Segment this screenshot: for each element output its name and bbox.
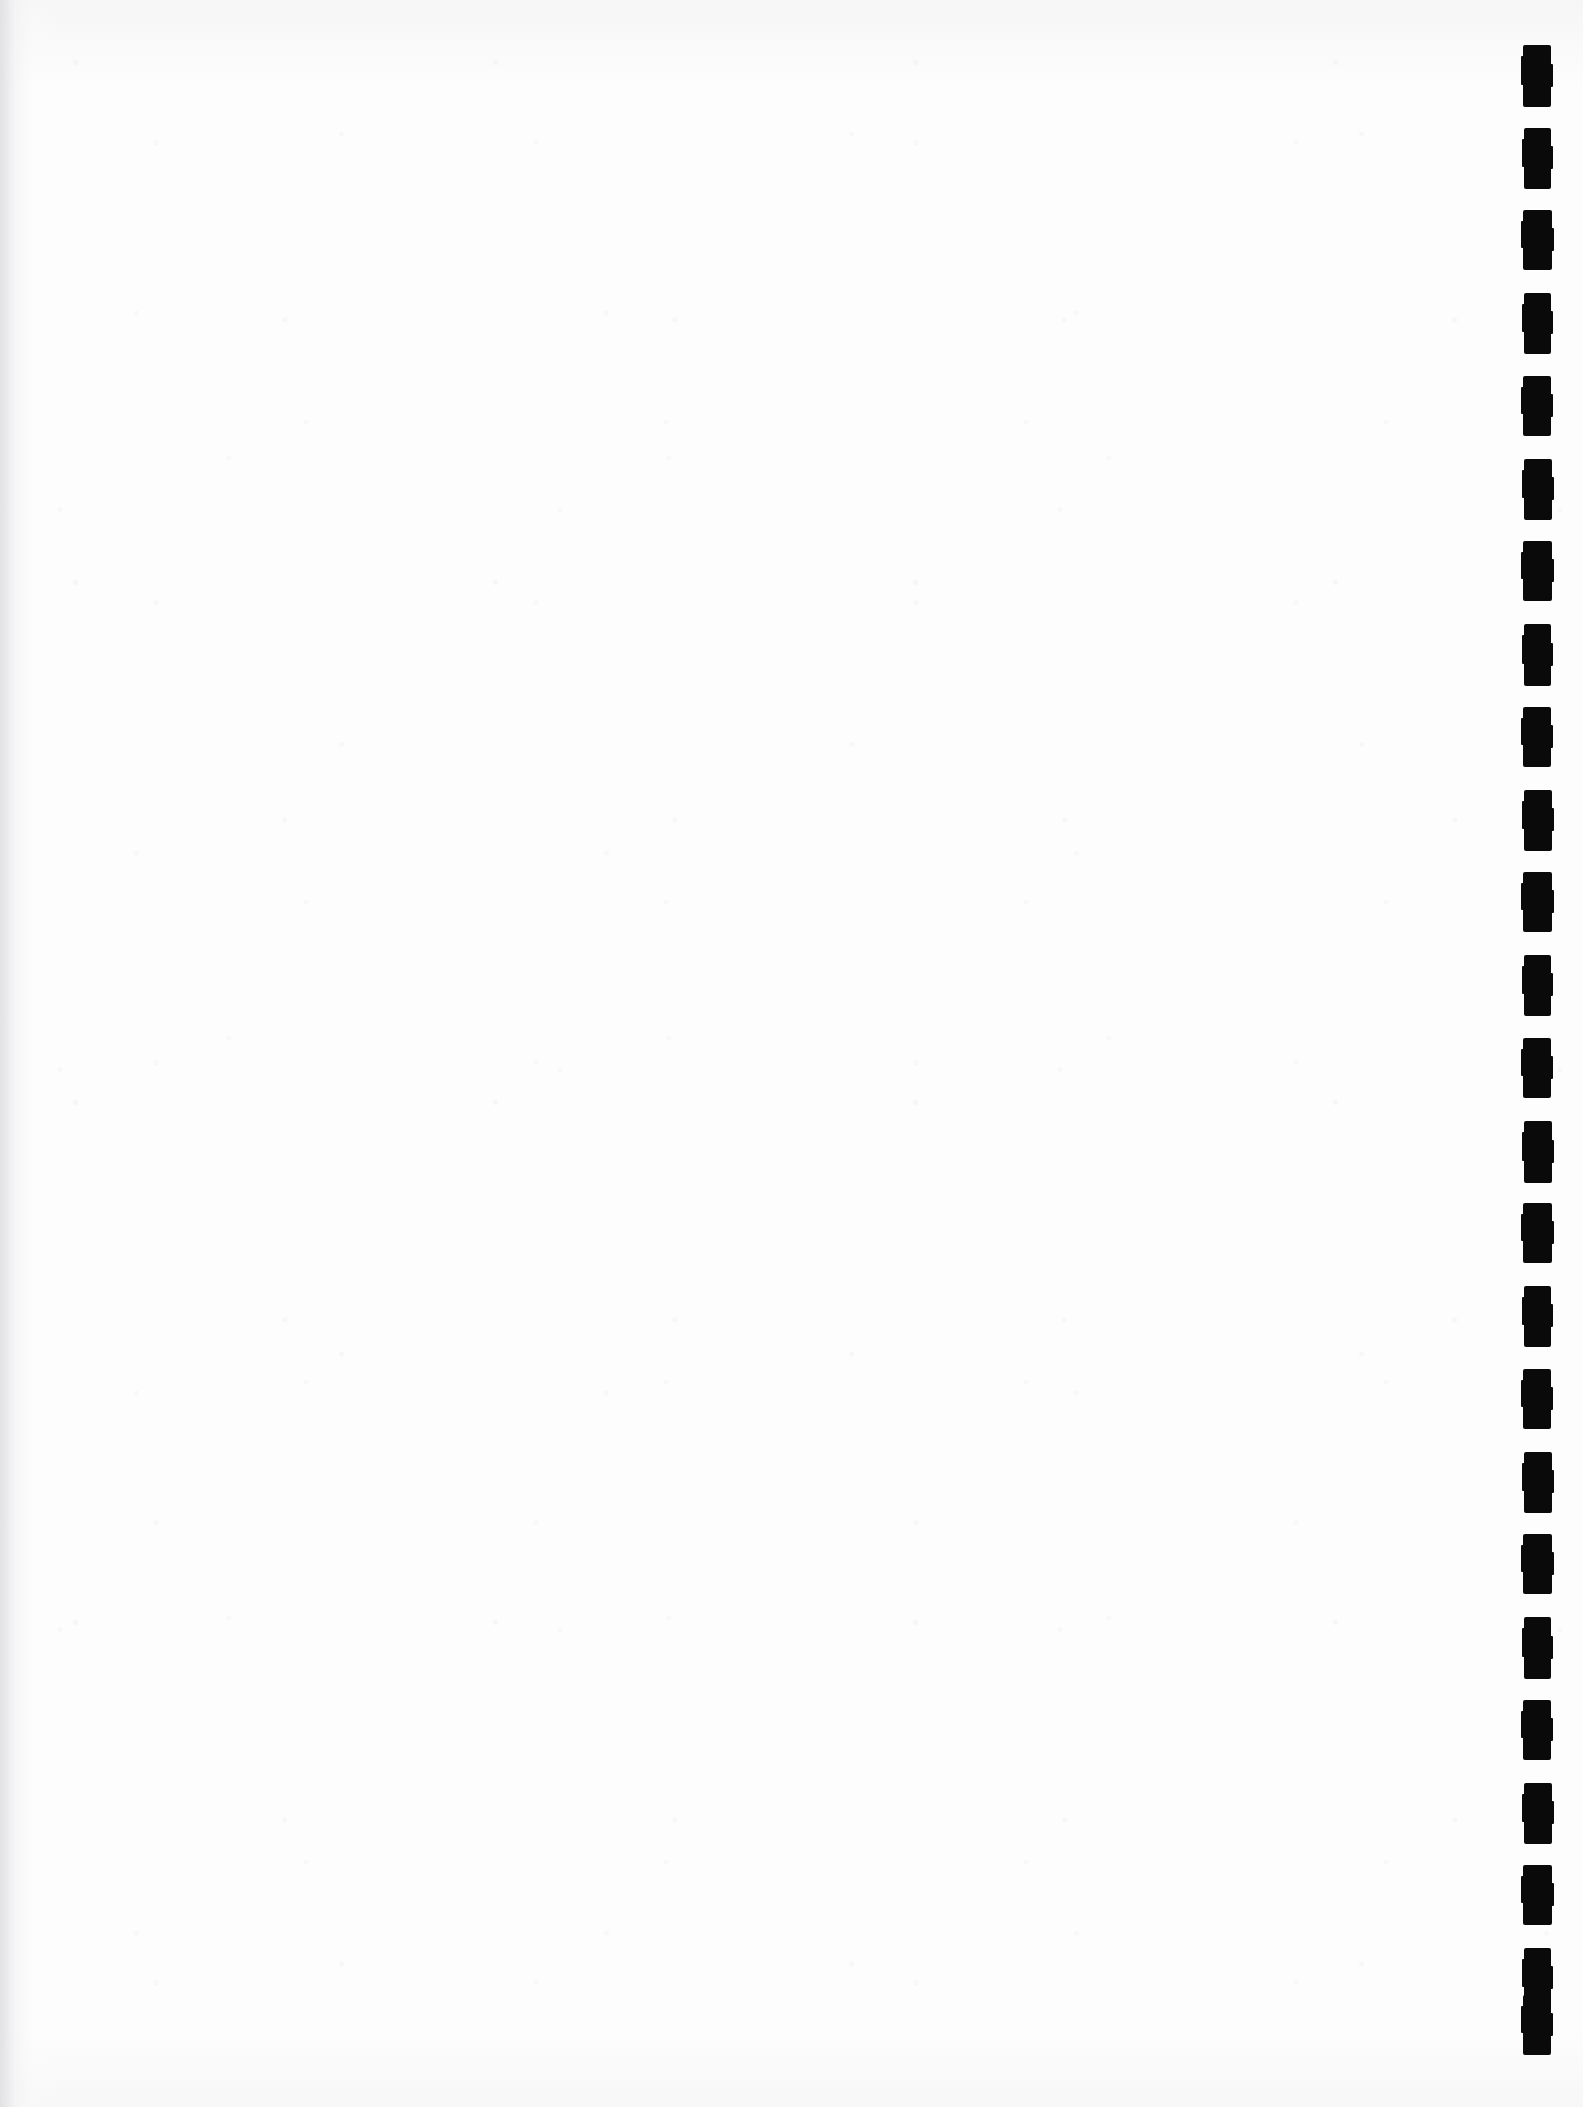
paper-background: [0, 0, 1583, 2107]
scanned-page: [0, 0, 1583, 2107]
